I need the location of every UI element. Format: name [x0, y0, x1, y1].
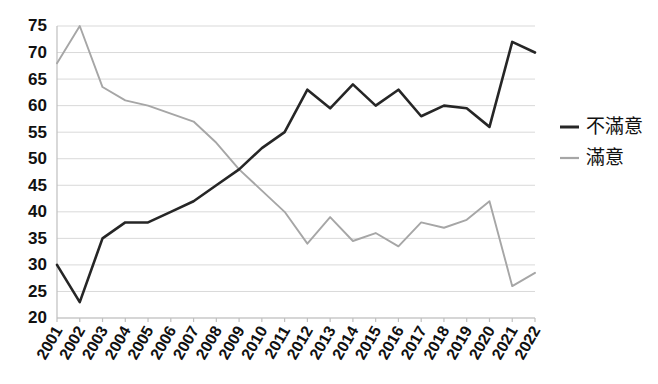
y-tick-label: 65 [28, 70, 47, 89]
y-tick-label: 20 [28, 308, 47, 327]
y-tick-label: 25 [28, 282, 47, 301]
y-tick-label: 70 [28, 43, 47, 62]
x-axis-tick-labels: 2001200220032004200520062007200820092010… [33, 318, 544, 362]
y-tick-label: 60 [28, 96, 47, 115]
y-tick-label: 55 [28, 123, 47, 142]
y-tick-label: 30 [28, 255, 47, 274]
y-tick-label: 35 [28, 229, 47, 248]
chart-legend: 不滿意滿意 [560, 116, 643, 168]
gridlines [57, 26, 535, 318]
series-line-0 [57, 42, 535, 302]
y-tick-label: 45 [28, 176, 47, 195]
axis-lines [57, 26, 535, 318]
y-axis-tick-labels: 202530354045505560657075 [28, 16, 47, 327]
y-tick-label: 50 [28, 149, 47, 168]
data-series [57, 26, 535, 302]
y-tick-label: 75 [28, 16, 47, 35]
chart-canvas: 202530354045505560657075 200120022003200… [0, 0, 658, 384]
legend-label-0[interactable]: 不滿意 [586, 116, 643, 137]
line-chart: 202530354045505560657075 200120022003200… [0, 0, 658, 384]
series-line-1 [57, 26, 535, 286]
legend-label-1[interactable]: 滿意 [586, 147, 624, 168]
y-tick-label: 40 [28, 202, 47, 221]
